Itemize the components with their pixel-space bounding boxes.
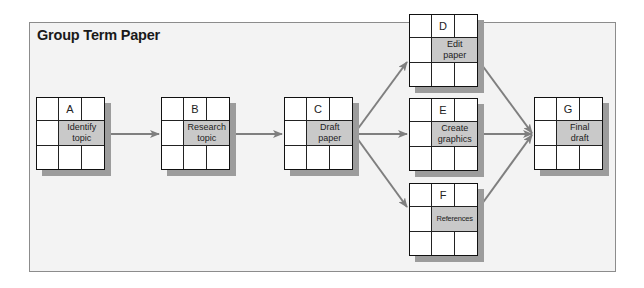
- edge-d-g: [479, 61, 532, 133]
- node-task: Researchtopic: [184, 121, 229, 145]
- node-task: Identifytopic: [59, 121, 104, 145]
- node-a: A Identifytopic: [36, 97, 105, 170]
- node-letter: B: [184, 98, 206, 121]
- node-d: D Editpaper: [409, 14, 478, 87]
- node-c: C Draftpaper: [284, 97, 353, 170]
- node-letter: C: [307, 98, 329, 121]
- node-letter: F: [432, 184, 454, 207]
- edge-c-d: [354, 62, 407, 134]
- node-task: Creategraphics: [432, 122, 477, 146]
- node-letter: D: [432, 15, 454, 38]
- node-g: G Finaldraft: [534, 97, 603, 170]
- node-task: Finaldraft: [557, 121, 602, 145]
- node-e: E Creategraphics: [409, 98, 478, 171]
- edge-f-g: [479, 135, 532, 208]
- node-task: References: [432, 207, 477, 231]
- node-f: F References: [409, 183, 478, 256]
- node-b: B Researchtopic: [161, 97, 230, 170]
- node-letter: A: [59, 98, 81, 121]
- edge-c-f: [354, 134, 407, 207]
- node-task: Draftpaper: [307, 121, 352, 145]
- node-letter: E: [432, 99, 454, 122]
- node-task: Editpaper: [432, 38, 477, 62]
- node-letter: G: [557, 98, 579, 121]
